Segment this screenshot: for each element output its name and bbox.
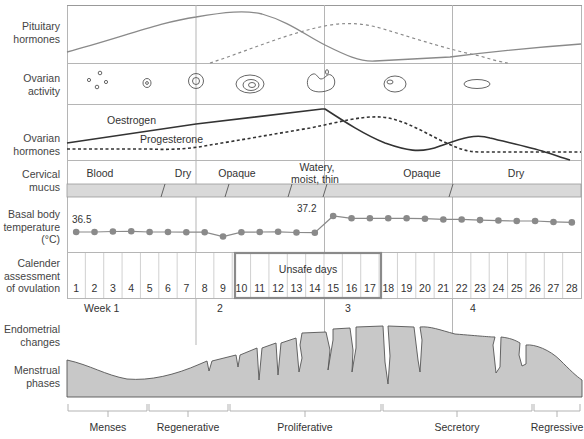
calendar-day-19: 19 — [401, 282, 413, 294]
phase-proliferative: Proliferative — [277, 421, 333, 433]
phase-brackets — [68, 404, 580, 417]
developing-follicle-icon — [143, 79, 151, 88]
corpus-luteum-icon — [384, 76, 406, 92]
calendar-day-6: 6 — [165, 282, 171, 294]
mucus-dry: Dry — [175, 167, 192, 179]
primordial-follicles-icon — [87, 71, 107, 89]
bbt-point-day-17 — [367, 215, 374, 222]
week-2-label: 2 — [217, 302, 223, 314]
calendar-day-25: 25 — [511, 282, 523, 294]
bbt-point-day-5 — [146, 229, 153, 236]
bbt-point-day-8 — [201, 229, 208, 236]
bbt-point-day-3 — [110, 228, 117, 235]
phase-secretory: Secretory — [435, 421, 481, 433]
calendar-day-18: 18 — [382, 282, 394, 294]
bbt-point-day-2 — [91, 229, 98, 236]
corpus-albicans-icon — [464, 80, 490, 89]
bbt-point-day-23 — [477, 217, 484, 224]
calendar-day-1: 1 — [73, 282, 79, 294]
bbt-point-day-1 — [73, 229, 80, 236]
bbt-point-day-16 — [348, 215, 355, 222]
bbt-point-day-11 — [256, 229, 263, 236]
calendar-day-26: 26 — [529, 282, 541, 294]
calendar-day-14: 14 — [309, 282, 321, 294]
bbt-point-day-22 — [458, 216, 465, 223]
bbt-point-day-12 — [275, 228, 282, 235]
calendar-day-16: 16 — [346, 282, 358, 294]
mucus-blood: Blood — [87, 167, 114, 179]
bbt-point-day-6 — [165, 229, 172, 236]
calendar-day-10: 10 — [236, 282, 248, 294]
calendar-day-2: 2 — [92, 282, 98, 294]
unsafe-days-label: Unsafe days — [279, 263, 337, 275]
ovulation-icon — [307, 70, 334, 92]
bbt-point-day-14 — [312, 229, 319, 236]
calendar-day-12: 12 — [272, 282, 284, 294]
calendar-day-15: 15 — [327, 282, 339, 294]
calendar-day-27: 27 — [548, 282, 560, 294]
mucus-opaque-2: Opaque — [403, 167, 441, 179]
bbt-point-day-24 — [495, 217, 502, 224]
bbt-point-day-27 — [550, 219, 557, 226]
ovarian-activity-follicles — [87, 70, 490, 93]
bbt-point-day-9 — [220, 233, 227, 240]
calendar-day-9: 9 — [220, 282, 226, 294]
mucus-dry-2: Dry — [508, 167, 525, 179]
bbt-point-day-21 — [440, 216, 447, 223]
calendar-row: 1234567891011121314151617181920212223242… — [73, 253, 578, 298]
calendar-day-3: 3 — [110, 282, 116, 294]
week-1-label: Week 1 — [84, 302, 120, 314]
calendar-day-5: 5 — [147, 282, 153, 294]
bbt-chart: 36.5 37.2 — [72, 203, 575, 240]
calendar-day-13: 13 — [291, 282, 303, 294]
bbt-point-day-25 — [513, 218, 520, 225]
mucus-watery: Watery, — [299, 161, 334, 173]
calendar-day-4: 4 — [128, 282, 134, 294]
graafian-follicle-icon — [236, 75, 264, 93]
bbt-point-day-20 — [422, 215, 429, 222]
bbt-point-day-13 — [293, 229, 300, 236]
bbt-point-day-28 — [569, 219, 576, 226]
week-4-label: 4 — [470, 302, 476, 314]
calendar-day-23: 23 — [474, 282, 486, 294]
calendar-day-24: 24 — [493, 282, 505, 294]
calendar-day-28: 28 — [566, 282, 578, 294]
progesterone-label: Progesterone — [140, 133, 203, 145]
bbt-point-day-15 — [330, 213, 337, 220]
diagram-canvas: Oestrogen Progesterone Blood Dry Opaque … — [0, 0, 584, 439]
cervical-mucus-row: Blood Dry Opaque Watery, moist, thin Opa… — [67, 161, 581, 197]
bbt-point-day-10 — [238, 229, 245, 236]
calendar-day-22: 22 — [456, 282, 468, 294]
calendar-day-8: 8 — [202, 282, 208, 294]
bbt-point-day-7 — [183, 229, 190, 236]
calendar-day-17: 17 — [364, 282, 376, 294]
bbt-point-day-18 — [385, 215, 392, 222]
lh-curve — [210, 24, 508, 63]
calendar-day-21: 21 — [437, 282, 449, 294]
bbt-point-day-4 — [128, 228, 135, 235]
endometrium-shape — [67, 326, 582, 397]
menstrual-cycle-diagram: Pituitary hormones Ovarian activity Ovar… — [0, 0, 584, 439]
bbt-peak-label: 37.2 — [297, 203, 317, 214]
calendar-day-20: 20 — [419, 282, 431, 294]
mucus-opaque-1: Opaque — [218, 167, 256, 179]
phase-menses: Menses — [90, 421, 127, 433]
week-3-label: 3 — [345, 302, 351, 314]
phase-regressive: Regressive — [531, 421, 584, 433]
bbt-point-day-26 — [532, 218, 539, 225]
bbt-point-day-19 — [403, 215, 410, 222]
phase-regenerative: Regenerative — [157, 421, 220, 433]
bbt-start-label: 36.5 — [72, 214, 92, 225]
oestrogen-label: Oestrogen — [107, 114, 156, 126]
calendar-day-11: 11 — [254, 282, 265, 294]
calendar-day-7: 7 — [183, 282, 189, 294]
mucus-moist-thin: moist, thin — [291, 173, 339, 185]
